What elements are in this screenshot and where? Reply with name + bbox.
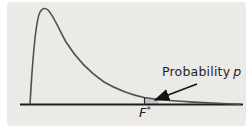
critical-value-label: F* — [139, 105, 151, 120]
probability-label-word: Probability — [162, 64, 230, 79]
probability-variable: p — [233, 64, 241, 79]
probability-label: Probabilityp — [162, 64, 241, 79]
density-curve — [30, 8, 240, 104]
annotation-arrow — [155, 84, 197, 100]
critical-value-star: * — [146, 105, 151, 115]
figure: Probabilityp F* — [0, 0, 251, 133]
